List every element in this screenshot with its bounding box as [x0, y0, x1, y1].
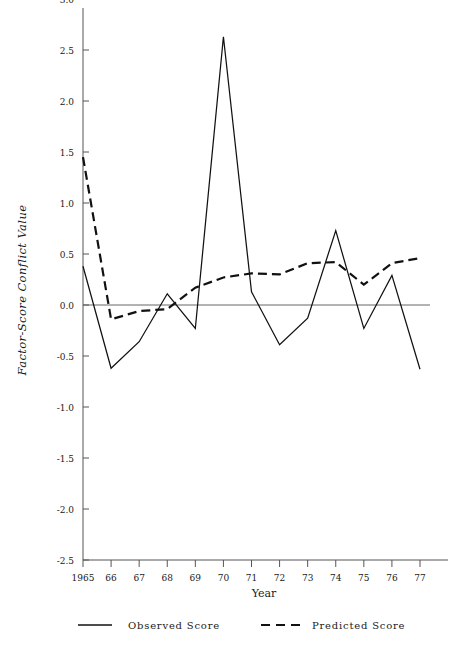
x-tick-label: 74 — [330, 573, 342, 583]
legend: Observed Score Predicted Score — [78, 620, 405, 631]
x-axis-ticks: 1965666768697071727374757677 — [72, 560, 426, 583]
x-tick-label: 1965 — [72, 573, 95, 583]
series-line-predicted-score — [83, 157, 420, 319]
line-chart-svg: 3.02.52.01.51.00.50.0-0.5-1.0-1.5-2.0-2.… — [0, 0, 451, 645]
y-tick-label: 1.0 — [60, 199, 75, 209]
x-tick-label: 70 — [218, 573, 230, 583]
y-tick-label: 2.0 — [60, 97, 75, 107]
x-tick-label: 72 — [274, 573, 285, 583]
y-tick-label: 1.5 — [60, 148, 75, 158]
y-tick-label: -1.0 — [57, 403, 75, 413]
y-tick-label: -1.5 — [57, 454, 75, 464]
axes — [83, 8, 448, 560]
legend-label-observed-score: Observed Score — [128, 620, 220, 631]
x-tick-label: 73 — [302, 573, 314, 583]
y-axis-ticks: 3.02.52.01.51.00.50.0-0.5-1.0-1.5-2.0-2.… — [57, 0, 89, 566]
x-tick-label: 75 — [358, 573, 370, 583]
x-tick-label: 69 — [190, 573, 202, 583]
chart-figure: 3.02.52.01.51.00.50.0-0.5-1.0-1.5-2.0-2.… — [0, 0, 451, 645]
series-line-observed-score — [83, 37, 420, 370]
y-tick-label: 0.0 — [60, 301, 75, 311]
data-series-group — [83, 37, 420, 370]
y-tick-label: 0.5 — [60, 250, 75, 260]
y-tick-label: -2.5 — [57, 556, 75, 566]
x-tick-label: 76 — [386, 573, 398, 583]
y-tick-label: -0.5 — [57, 352, 75, 362]
x-tick-label: 71 — [246, 573, 257, 583]
x-tick-label: 68 — [162, 573, 174, 583]
x-tick-label: 77 — [414, 573, 426, 583]
legend-label-predicted-score: Predicted Score — [312, 620, 405, 631]
x-tick-label: 66 — [105, 573, 117, 583]
x-tick-label: 67 — [133, 573, 145, 583]
y-axis-title: Factor-Score Conflict Value — [15, 205, 29, 377]
y-tick-label: 2.5 — [60, 46, 75, 56]
x-axis-title: Year — [251, 587, 277, 600]
y-tick-label: -2.0 — [57, 505, 75, 515]
y-tick-label: 3.0 — [60, 0, 75, 5]
